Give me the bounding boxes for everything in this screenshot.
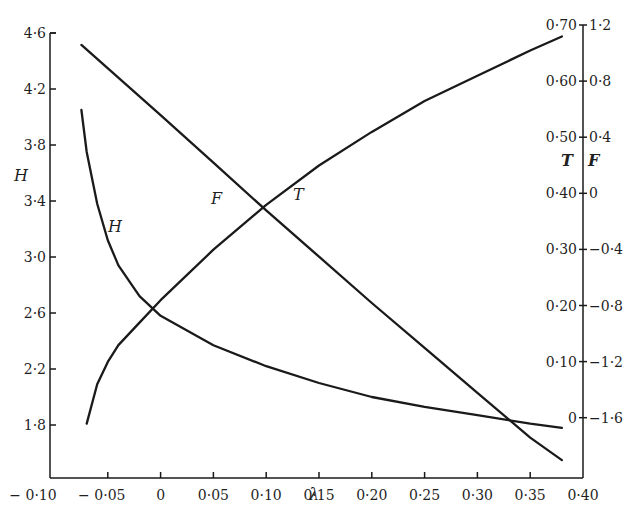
right-T-tick-label: 0·30	[546, 241, 577, 257]
right-F-tick-label: 1·2	[589, 17, 611, 33]
x-axis-title: λ	[308, 485, 319, 504]
right-T-tick-label: 0·50	[546, 129, 577, 145]
right-T-tick-label: 0·20	[546, 298, 577, 314]
curve-label-F: F	[210, 189, 223, 208]
right-F-tick-label: −0·8	[589, 298, 623, 314]
right-T-tick-label: 0·40	[546, 185, 577, 201]
curves	[81, 37, 562, 461]
right-T-tick-label: 0	[568, 410, 577, 426]
left-tick-label: 4·2	[24, 81, 46, 97]
tick-labels: − 0·10− 0·0500·050·100·150·200·250·300·3…	[9, 17, 623, 503]
x-tick-label: 0·25	[409, 487, 440, 503]
right-F-tick-label: 0	[589, 185, 598, 201]
right-T-tick-label: 0·70	[546, 17, 577, 33]
right-axis-title-T: T	[561, 151, 574, 170]
right-T-tick-label: 0·10	[546, 354, 577, 370]
left-tick-label: 3·8	[24, 137, 46, 153]
curve-label-H: H	[107, 217, 123, 236]
left-tick-label: 4·6	[24, 25, 46, 41]
x-tick-label: 0	[156, 487, 165, 503]
curve-T	[87, 37, 562, 424]
curve-F	[81, 45, 562, 460]
curve-H	[81, 110, 562, 428]
left-tick-label: 1·8	[24, 417, 46, 433]
x-tick-label: − 0·10	[9, 487, 56, 503]
right-F-tick-label: −0·4	[589, 241, 623, 257]
x-tick-label: − 0·05	[78, 487, 125, 503]
x-tick-label: 0·05	[198, 487, 229, 503]
right-F-tick-label: −1·2	[589, 354, 623, 370]
right-T-tick-label: 0·60	[546, 73, 577, 89]
left-axis-title: H	[13, 166, 29, 185]
x-tick-label: 0·35	[515, 487, 546, 503]
right-F-tick-label: 0·8	[589, 73, 611, 89]
chart: − 0·10− 0·0500·050·100·150·200·250·300·3…	[0, 0, 642, 519]
right-F-tick-label: 0·4	[589, 129, 611, 145]
ticks	[50, 25, 587, 478]
curve-label-T: T	[293, 185, 305, 204]
right-F-tick-label: −1·6	[589, 410, 623, 426]
axes	[50, 25, 583, 478]
right-axis-title-F: F	[587, 151, 601, 170]
left-tick-label: 2·2	[24, 361, 46, 377]
x-tick-label: 0·10	[251, 487, 282, 503]
x-tick-label: 0·20	[356, 487, 387, 503]
left-tick-label: 3·4	[24, 193, 46, 209]
left-tick-label: 3·0	[24, 249, 46, 265]
x-tick-label: 0·30	[462, 487, 493, 503]
x-tick-label: 0·40	[567, 487, 598, 503]
left-tick-label: 2·6	[24, 305, 46, 321]
